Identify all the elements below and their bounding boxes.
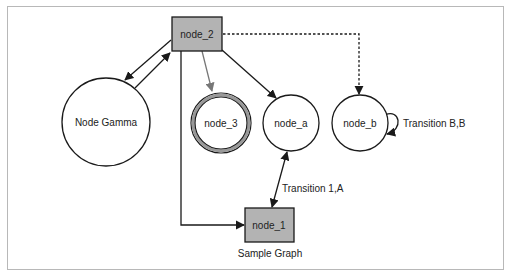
node-1-label: node_1 bbox=[252, 220, 286, 231]
node-gamma-label: Node Gamma bbox=[75, 117, 138, 128]
edge-node2-to-node3 bbox=[202, 51, 212, 91]
edge-node2-to-node-a bbox=[222, 50, 276, 98]
node-2[interactable]: node_2 bbox=[172, 17, 222, 51]
node-b[interactable]: node_b bbox=[332, 95, 388, 151]
edge-node2-to-node-b-dotted bbox=[223, 34, 359, 94]
node-a-label: node_a bbox=[274, 118, 308, 129]
node-3[interactable]: node_3 bbox=[191, 93, 251, 153]
edge-node-a-node1-bidirectional bbox=[272, 152, 287, 207]
node-a[interactable]: node_a bbox=[263, 95, 319, 151]
node-2-label: node_2 bbox=[180, 29, 214, 40]
edge-label-transition-1a: Transition 1,A bbox=[282, 183, 344, 194]
node-b-label: node_b bbox=[343, 118, 377, 129]
graph-canvas: Node Gamma node_2 node_3 node_a node_b n… bbox=[0, 0, 507, 278]
node-gamma[interactable]: Node Gamma bbox=[62, 78, 150, 166]
edge-node2-to-gamma bbox=[125, 40, 171, 80]
edge-gamma-to-node2 bbox=[135, 53, 170, 88]
node-3-label: node_3 bbox=[204, 118, 238, 129]
graph-caption: Sample Graph bbox=[238, 248, 302, 259]
edge-label-transition-bb: Transition B,B bbox=[403, 118, 466, 129]
node-1[interactable]: node_1 bbox=[245, 208, 294, 242]
